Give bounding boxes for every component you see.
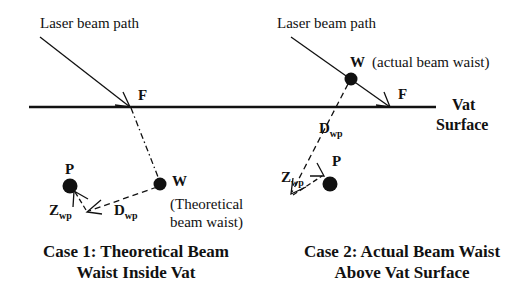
case2-point-dot [323, 177, 338, 192]
case1-refracted-path [131, 108, 160, 182]
case2-zwp-sub: wp [291, 177, 304, 188]
case2-laser-label: Laser beam path [277, 16, 376, 31]
case1-laser-label: Laser beam path [40, 16, 139, 31]
case2-dwp-main: D [319, 120, 330, 136]
case1-dwp-label: Dwp [114, 203, 138, 218]
case1-laser-beam [40, 37, 130, 107]
case1-dwp-sub: wp [125, 210, 138, 221]
case1-zwp-main: Z [49, 202, 59, 218]
case1-caption-line2: Waist Inside Vat [28, 262, 244, 283]
case2-caption: Case 2: Actual Beam Waist Above Vat Surf… [282, 241, 522, 283]
vat-label-line1: Vat [452, 97, 475, 113]
case1-focus-label: F [138, 88, 147, 103]
case1-caption-line1: Case 1: Theoretical Beam [28, 241, 244, 262]
case1-geometry [40, 37, 167, 214]
case1-zwp-sub: wp [59, 210, 72, 221]
case2-waist-label: W [350, 55, 365, 70]
case2-caption-line1: Case 2: Actual Beam Waist [282, 241, 522, 262]
case2-zwp-label: Zwp [281, 170, 304, 185]
case2-focus-label: F [398, 87, 407, 102]
case1-dwp-main: D [114, 202, 125, 218]
case2-dwp-sub: wp [330, 128, 343, 139]
case2-point-label: P [332, 154, 341, 169]
case2-caption-line2: Above Vat Surface [282, 262, 522, 283]
case2-waist-desc: (actual beam waist) [372, 55, 489, 70]
case2-laser-beam [291, 37, 390, 107]
case2-zwp-arrowhead [310, 163, 324, 176]
case1-point-label: P [65, 162, 74, 177]
case1-waist-dot [154, 178, 167, 191]
case2-zwp-main: Z [281, 169, 291, 185]
case2-dwp-label: Dwp [319, 121, 343, 136]
case1-waist-desc-line2: beam waist) [170, 215, 243, 230]
case1-waist-label: W [172, 174, 187, 189]
case2-waist-dot [345, 73, 358, 86]
case1-waist-desc-line1: (Theoretical [170, 197, 243, 212]
vat-label-line2: Surface [436, 117, 488, 133]
case1-caption: Case 1: Theoretical Beam Waist Inside Va… [28, 241, 244, 283]
case1-zwp-label: Zwp [49, 203, 72, 218]
